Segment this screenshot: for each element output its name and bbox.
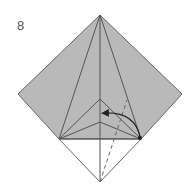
origami-diagram: [0, 0, 195, 185]
pivot-point: [138, 136, 142, 140]
